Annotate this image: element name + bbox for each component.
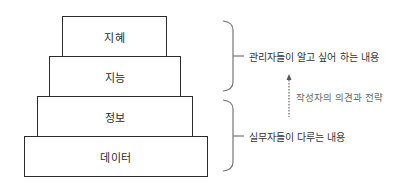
lower-brace-icon (223, 100, 233, 171)
arrow-up-icon (287, 74, 292, 80)
lower-brace-label: 실무자들이 다루는 내용 (249, 129, 345, 144)
arrow-note-label: 작성자의 의견과 전략 (296, 90, 383, 104)
upper-brace-icon (223, 21, 233, 91)
upper-brace-label: 관리자들이 알고 싶어 하는 내용 (249, 49, 379, 64)
